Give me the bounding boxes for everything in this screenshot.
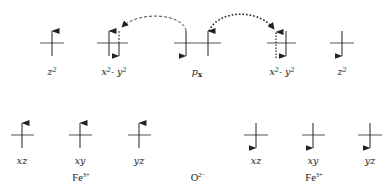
- label-rest: - y: [111, 66, 123, 77]
- ion-label-oxygen: O2−: [191, 172, 206, 184]
- label-superscript: 2: [52, 66, 56, 74]
- orbital-fe2-xz: [244, 123, 268, 148]
- ion-charge: 3+: [83, 171, 90, 178]
- orbital-diagram: [0, 0, 388, 192]
- dashed-transfer-arc: [122, 16, 186, 31]
- label-fe2-xz: xz: [251, 156, 261, 166]
- label-fe1-xz: xz: [17, 156, 27, 166]
- label-superscript: 2: [342, 66, 346, 74]
- dotted-transfer-arc: [209, 14, 274, 31]
- orbital-fe1-x2-y2: [97, 31, 128, 56]
- label-fe1-xy: xy: [75, 156, 86, 166]
- label-fe2-x2-y2: x2- y2: [269, 67, 294, 77]
- label-fe1-x2-y2: x2- y2: [101, 67, 126, 77]
- ion-symbol: Fe: [72, 172, 83, 183]
- ion-charge: 3+: [316, 171, 323, 178]
- ion-symbol: O: [191, 172, 199, 183]
- orbital-o-px: [174, 31, 221, 56]
- label-subscript: x: [198, 70, 202, 79]
- label-fe1-yz: yz: [134, 156, 144, 166]
- ion-symbol: Fe: [305, 172, 316, 183]
- ion-label-fe-right: Fe3+: [305, 172, 322, 184]
- orbital-fe2-z2: [330, 31, 354, 56]
- label-fe2-yz: yz: [365, 156, 375, 166]
- orbital-fe1-yz: [128, 123, 151, 148]
- orbital-fe2-yz: [358, 123, 382, 148]
- label-fe1-z2: z2: [47, 67, 56, 77]
- label-superscript: 2: [122, 66, 126, 74]
- ion-label-fe-left: Fe3+: [72, 172, 89, 184]
- label-fe2-z2: z2: [337, 67, 346, 77]
- orbital-fe1-z2: [40, 31, 64, 56]
- orbital-fe2-xy: [302, 123, 325, 148]
- label-rest: - y: [279, 66, 291, 77]
- label-fe2-xy: xy: [308, 156, 319, 166]
- orbital-fe2-x2-y2: [267, 31, 296, 58]
- ion-charge: 2−: [198, 171, 205, 178]
- label-superscript: 2: [290, 66, 294, 74]
- orbital-fe1-xz: [11, 123, 34, 148]
- orbital-fe1-xy: [69, 123, 92, 148]
- label-o-px: px: [192, 67, 202, 78]
